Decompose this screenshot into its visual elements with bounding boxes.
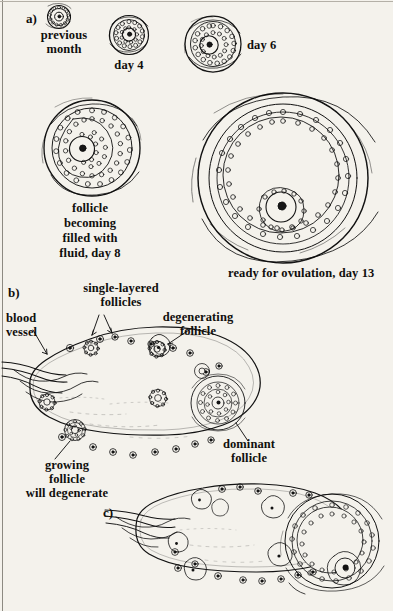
follicle-dominant-c — [280, 494, 384, 591]
follicle-primary — [109, 16, 149, 55]
follicle-b-mid1 — [83, 340, 100, 356]
follicle-growing-degenerate — [64, 420, 86, 441]
follicle-graafian — [192, 93, 378, 263]
label-single-layered-follicles: single-layered follicles — [66, 281, 176, 309]
figure-artwork — [0, 0, 393, 611]
page-border-top — [0, 1, 393, 2]
panel-tag-b: b) — [8, 285, 20, 301]
label-day-4: day 4 — [101, 59, 157, 73]
follicle-secondary — [184, 16, 241, 72]
follicle-dominant-b — [191, 374, 245, 431]
follicle-b-mid4 — [149, 389, 168, 408]
follicle-primordial — [46, 3, 71, 28]
label-previous-month: previous month — [18, 29, 110, 56]
label-day-8: follicle becoming filled with fluid, day… — [30, 201, 150, 261]
follicle-antral — [42, 98, 141, 196]
follicle-b-mid2 — [148, 340, 166, 358]
ovary-panel-c — [105, 484, 384, 594]
follicle-b-mid3 — [38, 393, 56, 411]
label-day-13: ready for ovulation, day 13 — [228, 267, 374, 281]
label-day-6: day 6 — [247, 39, 276, 53]
label-dominant-follicle: dominant follicle — [206, 437, 292, 465]
panel-tag-a: a) — [26, 11, 37, 27]
page-border-left — [2, 0, 3, 611]
panel-tag-c: c) — [103, 505, 113, 521]
label-degenerating-follicle: degenerating follicle — [146, 310, 250, 338]
label-growing-follicle: growing follicle will degenerate — [4, 458, 130, 500]
follicle-b-mid5 — [195, 364, 210, 379]
label-blood-vessel: blood vessel — [6, 311, 37, 339]
figure-ovarian-follicle-development: a) previous month day 4 day 6 follicle b… — [0, 0, 393, 611]
